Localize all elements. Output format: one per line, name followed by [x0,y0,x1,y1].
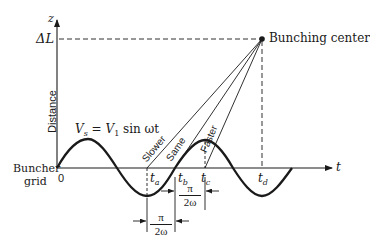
delta-l-label: ΔL [36,31,54,46]
interval-ab-denominator: 2ω [150,225,172,237]
time-mark-tc: tc [201,171,210,187]
interval-bc-fraction: π 2ω [179,183,201,208]
z-axis-label: z [48,12,54,25]
buncher-grid-label-line1: Buncher [13,162,60,175]
time-mark-td: td [258,171,268,187]
bunching-center-dot [259,36,265,42]
equation-eq-v: = V [88,122,114,136]
buncher-grid-label-line2: grid [24,175,47,188]
tc-sub: c [206,178,210,187]
t-axis-label: t [336,160,341,174]
interval-bc-denominator: 2ω [179,196,201,208]
voltage-equation: Vs = V1 sin ωt [75,122,159,138]
equation-v: V [75,122,84,136]
equation-tail: sin ωt [119,122,159,136]
time-mark-ta: ta [150,171,160,187]
bunching-center-label: Bunching center [269,31,370,45]
interval-ab-fraction: π 2ω [150,212,172,237]
interval-bc-numerator: π [179,183,201,196]
interval-ab-numerator: π [150,212,172,225]
td-sub: d [263,178,268,187]
trajectory-faster-line [205,39,262,168]
ta-sub: a [155,178,160,187]
distance-axis-title: Distance [46,90,58,133]
